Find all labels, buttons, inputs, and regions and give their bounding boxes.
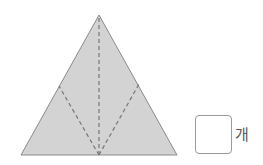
unit-label: 개 [235,126,249,144]
answer-input-box[interactable] [195,115,232,154]
